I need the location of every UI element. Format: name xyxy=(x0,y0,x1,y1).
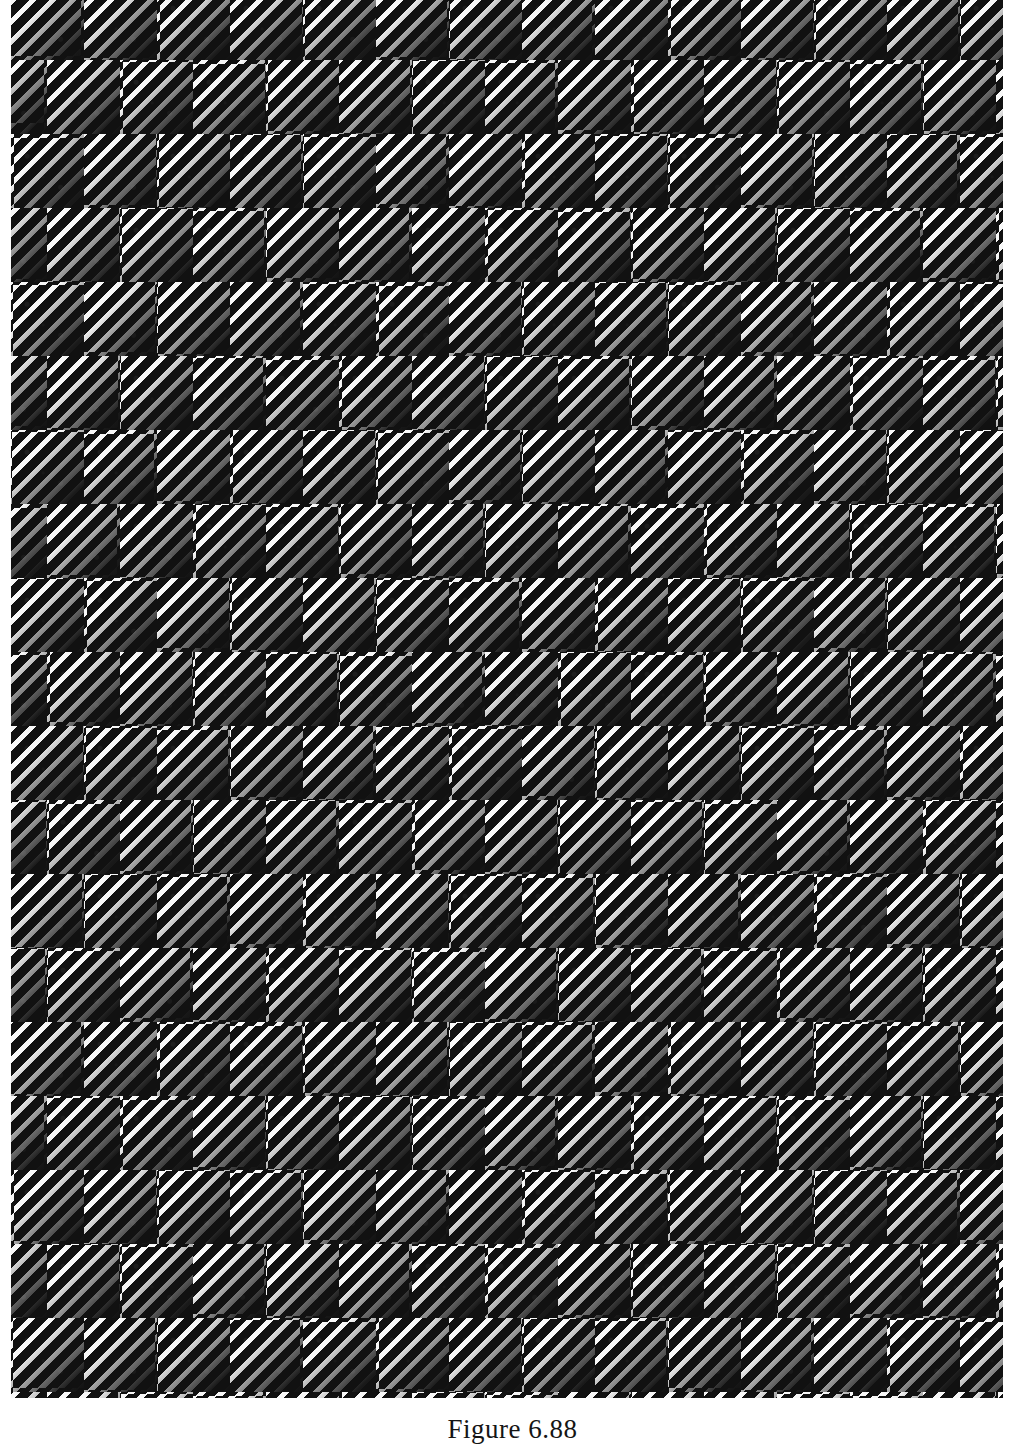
checker-cell xyxy=(741,578,814,652)
checker-cell xyxy=(339,504,412,578)
checker-cell xyxy=(376,282,449,356)
checker-cell xyxy=(777,1096,850,1170)
checkerboard-plate xyxy=(11,0,1003,1398)
checker-cell xyxy=(412,356,485,430)
checker-cell xyxy=(996,356,1003,430)
checker-cell xyxy=(522,0,595,60)
checker-cell xyxy=(339,1244,412,1318)
checker-cell xyxy=(558,1244,631,1318)
checker-cell xyxy=(595,1170,668,1244)
checker-cell xyxy=(230,0,303,60)
checker-cell xyxy=(303,282,376,356)
checker-cell xyxy=(157,1170,230,1244)
checker-cell xyxy=(84,1170,157,1244)
checker-cell xyxy=(339,948,412,1022)
checker-cell xyxy=(558,948,631,1022)
checker-cell xyxy=(923,60,996,134)
checker-cell xyxy=(11,0,84,60)
checker-cell xyxy=(84,1318,157,1392)
checker-cell xyxy=(668,1318,741,1392)
checker-cell xyxy=(230,578,303,652)
checker-cell xyxy=(522,430,595,504)
checker-cell xyxy=(303,1170,376,1244)
checker-cell xyxy=(193,356,266,430)
checker-cell xyxy=(412,504,485,578)
checker-cell xyxy=(558,356,631,430)
checker-cell xyxy=(47,948,120,1022)
checker-cell xyxy=(11,800,47,874)
checker-cell xyxy=(960,0,1003,60)
checker-cell xyxy=(193,1392,266,1398)
checker-cell xyxy=(631,1392,704,1398)
checker-cell xyxy=(960,1318,1003,1392)
checker-cell xyxy=(923,800,996,874)
checker-cell xyxy=(11,134,84,208)
checker-cell xyxy=(193,208,266,282)
checker-cell xyxy=(741,0,814,60)
checker-cell xyxy=(120,1096,193,1170)
checker-cell xyxy=(595,1022,668,1096)
checker-cell xyxy=(850,356,923,430)
checker-cell xyxy=(11,1318,84,1392)
checker-cell xyxy=(11,430,84,504)
checker-cell xyxy=(120,356,193,430)
checker-cell xyxy=(339,1096,412,1170)
checker-cell xyxy=(814,1170,887,1244)
checker-cell xyxy=(996,1244,1003,1318)
checker-cell xyxy=(522,726,595,800)
checker-cell xyxy=(266,1096,339,1170)
checker-cell xyxy=(668,0,741,60)
checker-cell xyxy=(741,430,814,504)
checker-cell xyxy=(266,1244,339,1318)
checker-cell xyxy=(84,1022,157,1096)
checker-cell xyxy=(595,134,668,208)
checker-cell xyxy=(595,578,668,652)
checker-cell xyxy=(47,652,120,726)
checker-cell xyxy=(668,430,741,504)
checker-cell xyxy=(996,60,1003,134)
checker-cell xyxy=(595,430,668,504)
checker-cell xyxy=(120,948,193,1022)
checker-cell xyxy=(741,1318,814,1392)
checker-cell xyxy=(157,430,230,504)
checker-cell xyxy=(923,1244,996,1318)
checker-cell xyxy=(923,208,996,282)
checker-cell xyxy=(887,726,960,800)
checker-cell xyxy=(704,652,777,726)
checker-cell xyxy=(777,948,850,1022)
checker-cell xyxy=(11,652,47,726)
checker-cell xyxy=(631,60,704,134)
checker-cell xyxy=(266,60,339,134)
checker-cell xyxy=(157,282,230,356)
checker-cell xyxy=(485,356,558,430)
checker-cell xyxy=(777,652,850,726)
checker-cell xyxy=(996,208,1003,282)
checker-cell xyxy=(47,1392,120,1398)
checker-cell xyxy=(996,800,1003,874)
checker-cell xyxy=(960,1022,1003,1096)
checker-cell xyxy=(193,948,266,1022)
checker-cell xyxy=(704,1392,777,1398)
checker-cell xyxy=(923,1392,996,1398)
checker-cell xyxy=(376,1318,449,1392)
checker-cell xyxy=(11,282,84,356)
checker-cell xyxy=(157,134,230,208)
checker-cell xyxy=(157,1022,230,1096)
checker-cell xyxy=(887,282,960,356)
checker-cell xyxy=(230,1170,303,1244)
checker-cell xyxy=(704,800,777,874)
checker-cell xyxy=(303,1022,376,1096)
checker-cell xyxy=(668,726,741,800)
checker-cell xyxy=(266,652,339,726)
checker-cell xyxy=(412,1392,485,1398)
checker-cell xyxy=(47,1096,120,1170)
checker-cell xyxy=(814,578,887,652)
checker-cell xyxy=(558,652,631,726)
checker-cell xyxy=(777,60,850,134)
checker-cell xyxy=(339,356,412,430)
checker-cell xyxy=(595,282,668,356)
checker-cell xyxy=(558,800,631,874)
checker-cell xyxy=(193,1096,266,1170)
checker-cell xyxy=(923,356,996,430)
checker-cell xyxy=(11,60,47,134)
